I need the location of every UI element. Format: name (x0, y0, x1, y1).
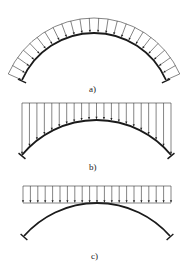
arrow-head-icon (103, 117, 105, 119)
arrow-head-icon (111, 200, 113, 202)
arrow-head-icon (73, 119, 75, 121)
arrow-head-icon (81, 200, 83, 202)
arch-axis (22, 33, 166, 80)
arrow-head-icon (133, 200, 135, 202)
arrow-head-icon (163, 200, 165, 202)
arrow-head-icon (37, 200, 39, 202)
arch-axis (24, 203, 170, 236)
arrow-head-icon (29, 200, 31, 202)
arrow-head-icon (97, 30, 99, 32)
panel-a-radial-load (8, 18, 179, 83)
arch-load-diagram: a) b) c) (0, 0, 186, 274)
arrow-head-icon (89, 200, 91, 202)
arrow-head-icon (159, 64, 161, 66)
arrow-head-icon (88, 117, 90, 119)
arrow-head-icon (170, 200, 172, 202)
panel-b-label: b) (89, 162, 97, 172)
panel-b-vertical-load (19, 103, 175, 159)
arrow-head-icon (89, 30, 91, 32)
arrow-head-icon (66, 200, 68, 202)
arrow-head-icon (59, 200, 61, 202)
arrow-head-icon (103, 200, 105, 202)
panel-c-label: c) (91, 251, 98, 261)
arrow-head-icon (155, 200, 157, 202)
arrow-head-icon (66, 122, 68, 124)
arrow-head-icon (95, 117, 97, 119)
arrow-head-icon (125, 122, 127, 124)
arrow-head-icon (118, 200, 120, 202)
arrow-head-icon (74, 200, 76, 202)
arrow-head-icon (126, 200, 128, 202)
arrow-head-icon (140, 200, 142, 202)
arrow-head-icon (27, 64, 29, 66)
load-envelope (8, 18, 179, 74)
arrow-head-icon (58, 124, 60, 126)
arrow-head-icon (44, 200, 46, 202)
arrow-head-icon (133, 124, 135, 126)
arrow-head-icon (22, 200, 24, 202)
arrow-head-icon (81, 118, 83, 120)
arrow-head-icon (118, 119, 120, 121)
panel-a-label: a) (89, 84, 96, 94)
arrow-head-icon (52, 200, 54, 202)
arrow-head-icon (110, 118, 112, 120)
arrow-head-icon (148, 200, 150, 202)
panel-c-uniform-band-load (21, 186, 174, 240)
